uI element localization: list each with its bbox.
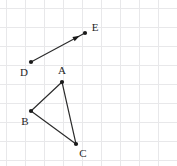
point-dot-D <box>29 60 33 64</box>
point-dot-E <box>83 31 87 35</box>
point-label-C: C <box>79 147 86 159</box>
triangle-segments-layer <box>31 82 76 144</box>
point-label-E: E <box>92 21 99 33</box>
figure-svg: ABCDE <box>0 0 177 166</box>
segment-AB <box>31 82 62 111</box>
grid-layer <box>0 0 177 166</box>
point-dot-B <box>29 109 33 113</box>
point-dot-A <box>60 80 64 84</box>
point-labels-layer: ABCDE <box>20 21 99 159</box>
point-dot-C <box>74 142 78 146</box>
vector-layer <box>31 33 85 62</box>
arrowhead-DE <box>72 36 79 41</box>
point-label-A: A <box>58 64 66 76</box>
points-layer <box>29 31 87 146</box>
point-label-B: B <box>21 115 28 127</box>
geometry-figure: ABCDE <box>0 0 177 166</box>
point-label-D: D <box>20 66 28 78</box>
